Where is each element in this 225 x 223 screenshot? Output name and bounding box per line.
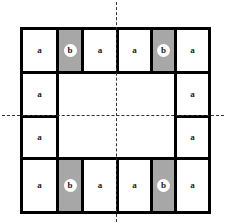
cell-a: a bbox=[81, 157, 119, 214]
cell-b: b bbox=[150, 27, 177, 74]
cell-a: a bbox=[174, 157, 211, 214]
cell-a: a bbox=[20, 115, 59, 160]
cell-label: b bbox=[157, 179, 170, 192]
cell-label: b bbox=[157, 44, 170, 57]
cell-label: a bbox=[37, 46, 42, 55]
cell-a: a bbox=[116, 157, 153, 214]
cell-label: a bbox=[132, 46, 137, 55]
cell-label: a bbox=[190, 90, 195, 99]
cell-label: a bbox=[98, 46, 103, 55]
cell-label: b bbox=[64, 44, 77, 57]
cell-label: a bbox=[132, 181, 137, 190]
diagram-canvas: abaabaaaaaabaaba bbox=[0, 0, 225, 223]
cell-label: a bbox=[98, 181, 103, 190]
cell-label: a bbox=[190, 181, 195, 190]
cell-label: a bbox=[37, 133, 42, 142]
cell-a: a bbox=[20, 71, 59, 118]
cell-label: a bbox=[190, 46, 195, 55]
cell-b: b bbox=[56, 157, 84, 214]
cell-label: a bbox=[190, 133, 195, 142]
cell-a: a bbox=[174, 71, 211, 118]
vertical-symmetry-axis bbox=[116, 2, 117, 222]
cell-label: a bbox=[37, 90, 42, 99]
cell-a: a bbox=[81, 27, 119, 74]
cell-a: a bbox=[116, 27, 153, 74]
cell-b: b bbox=[56, 27, 84, 74]
cell-b: b bbox=[150, 157, 177, 214]
cell-a: a bbox=[174, 27, 211, 74]
cell-label: b bbox=[64, 179, 77, 192]
cell-a: a bbox=[20, 27, 59, 74]
cell-a: a bbox=[174, 115, 211, 160]
cell-label: a bbox=[37, 181, 42, 190]
horizontal-symmetry-axis bbox=[2, 115, 224, 116]
cell-a: a bbox=[20, 157, 59, 214]
